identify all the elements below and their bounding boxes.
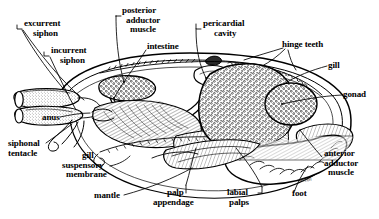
- label-foot: foot: [292, 189, 307, 199]
- label-excurrent-siphon: excurrentsiphon: [24, 19, 60, 38]
- gonad-mass: [265, 83, 317, 125]
- label-gill-suspensory-membrane: gillsuspensorymembrane: [62, 151, 107, 180]
- artist-signature: Kleon: [299, 177, 313, 184]
- posterior-adductor-muscle: [99, 76, 156, 101]
- label-hinge-teeth: hinge teeth: [282, 40, 323, 50]
- label-pericardial-cavity: pericardialcavity: [203, 19, 244, 38]
- label-palp-appendage: palpappendage: [153, 188, 194, 207]
- label-intestine: intestine: [147, 42, 179, 52]
- label-posterior-adductor-muscle: posterioradductormuscle: [122, 6, 160, 35]
- bivalve-anatomy-figure: Kleon excurrentsiphon incurrentsiphon po…: [0, 0, 379, 219]
- label-anterior-adductor-muscle: anterioradductormuscle: [324, 149, 358, 178]
- label-incurrent-siphon: incurrentsiphon: [51, 46, 86, 65]
- label-gonad: gonad: [343, 90, 366, 100]
- label-siphonal-tentacle: siphonaltentacle: [8, 139, 40, 158]
- label-gill-right: gill: [328, 61, 340, 71]
- label-anus: anus: [42, 113, 60, 123]
- label-labial-palps: labialpalps: [224, 188, 249, 207]
- label-mantle: mantle: [94, 191, 120, 201]
